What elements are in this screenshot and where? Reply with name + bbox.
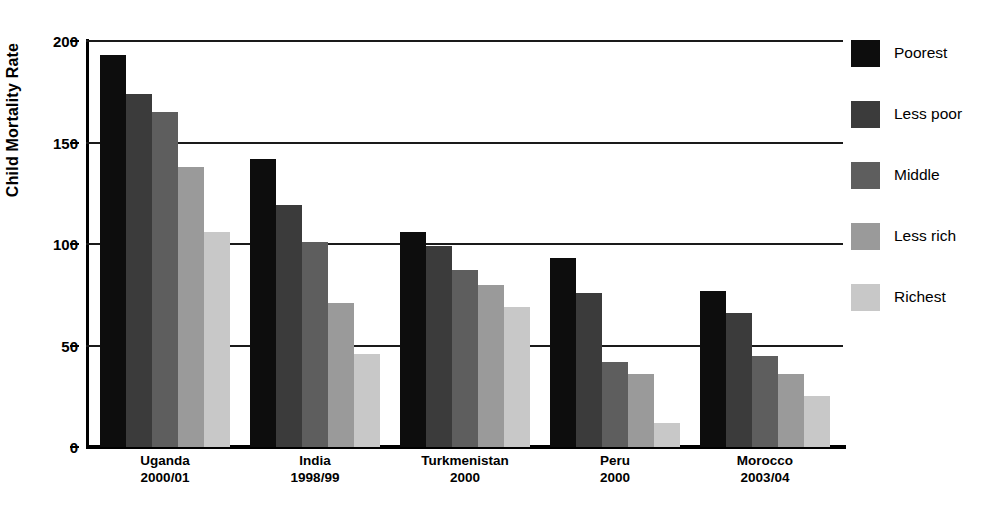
x-axis-category-label: Peru2000 [530,452,700,486]
y-axis-tick-mark [70,345,79,347]
bar-group [100,41,230,447]
legend-label: Poorest [894,45,947,61]
legend-label: Less poor [894,106,962,122]
x-axis-category-label: India1998/99 [230,452,400,486]
category-name: Peru [530,452,700,469]
bar-group [250,41,380,447]
x-axis-category-label: Turkmenistan2000 [380,452,550,486]
bar-group [550,41,680,447]
bar [328,303,354,447]
bar [504,307,530,447]
bar [426,246,452,447]
bar [752,356,778,447]
bar [602,362,628,447]
legend-label: Middle [894,167,940,183]
x-axis-category-label: Uganda2000/01 [80,452,250,486]
category-name: India [230,452,400,469]
bar [654,423,680,447]
bar [452,270,478,447]
x-axis-category-label: Morocco2003/04 [680,452,850,486]
legend-swatch [851,223,880,250]
category-year: 2000 [380,469,550,486]
y-axis-title: Child Mortality Rate [4,0,22,120]
legend-swatch [851,284,880,311]
legend-swatch [851,40,880,67]
bar [778,374,804,447]
legend-item[interactable]: Less rich [851,221,956,251]
bar [100,55,126,447]
bar [302,242,328,447]
y-axis-tick-labels: 050100150200 [22,41,78,447]
legend-swatch [851,162,880,189]
bar [204,232,230,447]
bar-group [400,41,530,447]
legend-swatch [851,101,880,128]
category-name: Uganda [80,452,250,469]
legend: PoorestLess poorMiddleLess richRichest [851,38,997,308]
category-year: 2000/01 [80,469,250,486]
legend-item[interactable]: Poorest [851,38,947,68]
chart-figure: Child Mortality Rate 050100150200 Uganda… [0,0,999,512]
y-axis-tick-mark [70,446,79,448]
category-name: Turkmenistan [380,452,550,469]
bar [250,159,276,447]
bar [276,205,302,447]
y-axis-tick-mark [70,243,79,245]
bar [400,232,426,447]
bar [354,354,380,447]
bar [178,167,204,447]
legend-label: Less rich [894,228,956,244]
category-year: 2003/04 [680,469,850,486]
y-axis-tick-mark [70,142,79,144]
bar-group [700,41,830,447]
bar [726,313,752,447]
bar [804,396,830,447]
legend-item[interactable]: Richest [851,282,946,312]
category-year: 2000 [530,469,700,486]
bar [700,291,726,447]
category-name: Morocco [680,452,850,469]
plot-area [86,41,843,447]
category-year: 1998/99 [230,469,400,486]
y-axis-tick-mark [70,40,79,42]
legend-label: Richest [894,289,946,305]
bar [478,285,504,447]
bar [628,374,654,447]
legend-item[interactable]: Middle [851,160,940,190]
bar [550,258,576,447]
bar [576,293,602,447]
y-axis-title-text: Child Mortality Rate [4,0,22,240]
bar [126,94,152,447]
bar [152,112,178,447]
x-axis-category-labels: Uganda2000/01India1998/99Turkmenistan200… [86,452,846,504]
legend-item[interactable]: Less poor [851,99,962,129]
